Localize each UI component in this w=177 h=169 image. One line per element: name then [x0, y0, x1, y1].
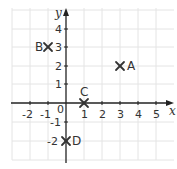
point-a-label: A: [127, 59, 136, 73]
x-tick-label: -2: [22, 108, 33, 121]
point-d-label: D: [72, 134, 81, 148]
y-tick-label: -1: [50, 116, 61, 129]
x-tick-label: 4: [135, 108, 142, 121]
x-tick-label: 1: [81, 108, 88, 121]
origin-label: 0: [57, 103, 64, 116]
y-tick-label: 2: [55, 60, 62, 73]
y-axis-arrow-icon: [63, 8, 69, 16]
y-axis-label: y: [54, 6, 62, 20]
coordinate-grid: x y -2 -1 1 2 3 4 5 0 4 3 2 1 -1 -2 A: [0, 0, 177, 169]
point-d: D: [62, 134, 81, 148]
x-tick-label: 5: [153, 108, 160, 121]
point-c: C: [80, 85, 88, 107]
point-b-label: B: [35, 40, 43, 54]
x-tick-label: 3: [117, 108, 124, 121]
y-tick-label: 3: [55, 41, 62, 54]
y-tick-label: 4: [55, 23, 62, 36]
grid-lines: [12, 8, 174, 160]
y-tick-label: -2: [47, 135, 58, 148]
point-c-label: C: [80, 85, 88, 99]
y-tick-label: 1: [55, 78, 62, 91]
x-tick-label: 2: [99, 108, 106, 121]
x-axis-label: x: [169, 104, 176, 118]
